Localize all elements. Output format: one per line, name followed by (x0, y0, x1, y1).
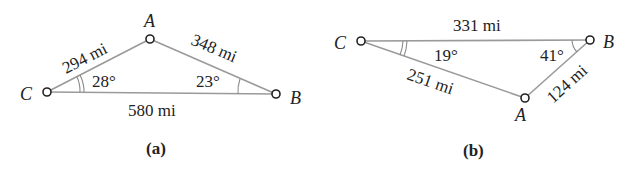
side-label-ab-a: 348 mi (188, 30, 240, 66)
angle-label-c-a: 28° (92, 72, 116, 91)
vertex-label-b-a: B (290, 88, 301, 108)
vertex-label-a-a: A (143, 11, 156, 31)
side-label-ca-b: 251 mi (405, 65, 457, 99)
vertex-c-b (357, 37, 365, 45)
angle-arc-b-a (238, 79, 240, 94)
angle-arc-c-a-2 (80, 75, 84, 92)
angle-arc-c-b (400, 41, 403, 55)
vertex-label-c-b: C (334, 33, 347, 53)
angle-arc-c-b-2 (404, 41, 407, 56)
side-cb-b (361, 40, 590, 41)
triangle-diagrams: C A B 294 mi 348 mi 580 mi 28° 23° (a) C… (0, 0, 635, 169)
caption-b: (b) (463, 141, 484, 160)
vertex-label-b-b: B (603, 32, 614, 52)
angle-label-b-b: 41° (540, 46, 564, 65)
vertex-label-a-b: A (514, 105, 527, 125)
side-label-cb-b: 331 mi (453, 16, 501, 35)
vertex-a-a (146, 35, 154, 43)
side-cb-a (47, 92, 276, 94)
vertex-a-b (521, 94, 529, 102)
vertex-b-a (272, 90, 280, 98)
vertex-c-a (43, 88, 51, 96)
side-label-cb-a: 580 mi (128, 101, 176, 120)
figure-b: C B A 331 mi 251 mi 124 mi 19° 41° (b) (334, 16, 614, 160)
vertex-label-c-a: C (20, 84, 33, 104)
angle-label-c-b: 19° (434, 46, 458, 65)
angle-arc-c-a (77, 77, 80, 92)
figure-a: C A B 294 mi 348 mi 580 mi 28° 23° (a) (20, 11, 301, 158)
angle-arc-b-b (572, 40, 577, 52)
caption-a: (a) (146, 139, 166, 158)
vertex-b-b (586, 36, 594, 44)
angle-label-b-a: 23° (196, 72, 220, 91)
side-label-ab-b: 124 mi (543, 61, 591, 107)
